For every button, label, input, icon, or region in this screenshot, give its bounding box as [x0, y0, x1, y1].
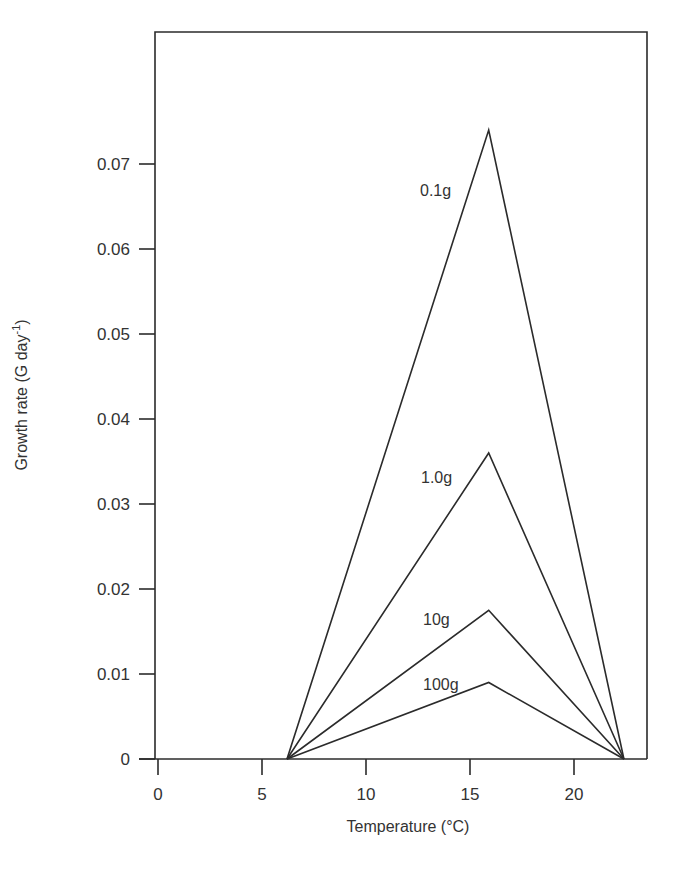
series-line-0.1g — [287, 130, 624, 759]
x-tick-label: 0 — [153, 785, 162, 804]
growth-rate-chart: 00.010.020.030.040.050.060.07 05101520 0… — [0, 0, 676, 871]
series-line-1.0g — [287, 453, 624, 759]
y-tick-label: 0.01 — [97, 665, 130, 684]
plot-frame — [139, 32, 647, 759]
y-tick-label: 0.02 — [97, 580, 130, 599]
series-lines: 0.1g1.0g10g100g — [287, 130, 624, 759]
y-axis-ticks: 00.010.020.030.040.050.060.07 — [97, 155, 155, 769]
y-axis-title: Growth rate (G day-1) — [10, 319, 30, 470]
series-label-0.1g: 0.1g — [420, 182, 451, 199]
x-tick-label: 5 — [257, 785, 266, 804]
series-label-1.0g: 1.0g — [421, 469, 452, 486]
x-axis-ticks: 05101520 — [153, 759, 583, 804]
y-tick-label: 0 — [121, 750, 130, 769]
series-label-100g: 100g — [423, 676, 459, 693]
x-tick-label: 15 — [461, 785, 480, 804]
plot-border — [155, 32, 647, 759]
series-label-10g: 10g — [423, 611, 450, 628]
y-tick-label: 0.06 — [97, 240, 130, 259]
y-tick-label: 0.05 — [97, 325, 130, 344]
y-tick-label: 0.04 — [97, 410, 130, 429]
x-tick-label: 20 — [565, 785, 584, 804]
y-tick-label: 0.07 — [97, 155, 130, 174]
y-tick-label: 0.03 — [97, 495, 130, 514]
x-axis-title: Temperature (°C) — [347, 818, 470, 835]
x-tick-label: 10 — [357, 785, 376, 804]
